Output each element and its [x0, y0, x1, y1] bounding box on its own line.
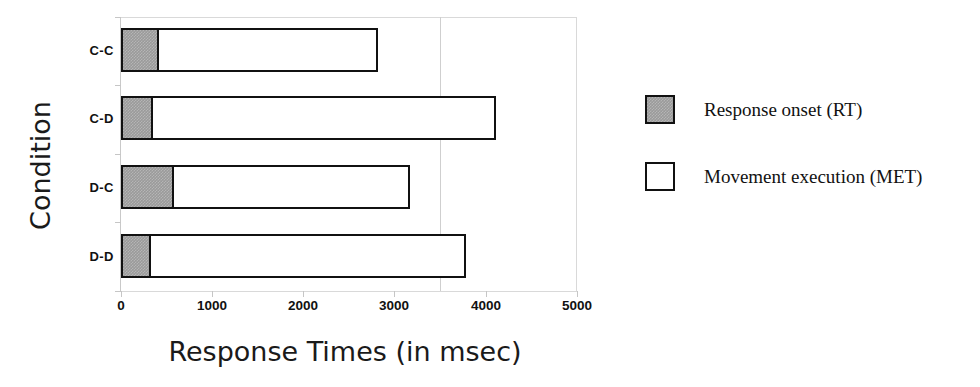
y-tick-label-c-c: C-C	[62, 43, 114, 58]
x-axis-title: Response Times (in msec)	[110, 336, 580, 367]
y-tick-label-d-d: D-D	[62, 249, 114, 264]
bar-segment-met-d-d	[151, 236, 464, 276]
legend-item-rt: Response onset (RT)	[645, 95, 922, 124]
x-tick-label-3000: 3000	[359, 298, 429, 313]
bar-segment-rt-c-d	[123, 98, 153, 138]
x-tick-label-2000: 2000	[268, 298, 338, 313]
y-tick-3	[115, 222, 121, 223]
bar-segment-met-d-c	[174, 167, 408, 207]
bar-segment-rt-c-c	[123, 30, 159, 70]
x-tick-1000	[212, 291, 213, 297]
legend-swatch-met-icon	[645, 162, 675, 191]
legend-item-met: Movement execution (MET)	[645, 162, 922, 191]
y-tick-1	[115, 85, 121, 86]
legend-label-met: Movement execution (MET)	[704, 166, 922, 188]
x-tick-5000	[577, 291, 578, 297]
chart-legend: Response onset (RT) Movement execution (…	[645, 95, 922, 229]
x-tick-label-0: 0	[86, 298, 156, 313]
chart-figure: Condition C-C C-D D-C D-D 0 1000 2000 30…	[0, 0, 980, 387]
bar-segment-met-c-d	[153, 98, 494, 138]
bar-c-c	[121, 28, 378, 72]
x-tick-4000	[486, 291, 487, 297]
x-tick-0	[121, 291, 122, 297]
y-tick-2	[115, 154, 121, 155]
x-axis-line	[121, 291, 578, 292]
x-tick-label-1000: 1000	[177, 298, 247, 313]
y-tick-4	[115, 291, 121, 292]
legend-swatch-rt-icon	[645, 95, 675, 124]
x-tick-3000	[394, 291, 395, 297]
bar-segment-rt-d-c	[123, 167, 174, 207]
legend-label-rt: Response onset (RT)	[704, 99, 862, 121]
bar-segment-met-c-c	[159, 30, 376, 70]
bar-c-d	[121, 96, 496, 140]
y-tick-0	[115, 17, 121, 18]
y-tick-label-c-d: C-D	[62, 111, 114, 126]
x-tick-label-5000: 5000	[542, 298, 612, 313]
y-axis-title: Condition	[25, 56, 56, 276]
y-tick-label-d-c: D-C	[62, 180, 114, 195]
bar-d-c	[121, 165, 410, 209]
x-tick-label-4000: 4000	[451, 298, 521, 313]
bar-segment-rt-d-d	[123, 236, 151, 276]
bar-d-d	[121, 234, 466, 278]
x-tick-2000	[303, 291, 304, 297]
